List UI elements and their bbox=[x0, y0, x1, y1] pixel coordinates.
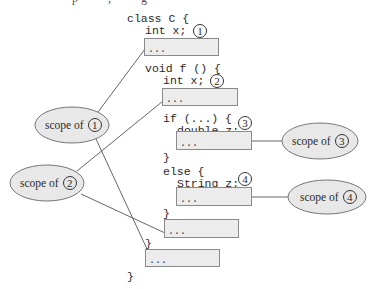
code-line-int-x-local: int x; bbox=[163, 75, 204, 87]
scope-label-text: scope of bbox=[300, 191, 339, 203]
marker-3: 3 bbox=[238, 116, 252, 130]
scope-label-3: scope of 3 bbox=[292, 134, 349, 148]
scope-marker-3: 3 bbox=[335, 134, 349, 148]
connector-scope1-box6 bbox=[96, 139, 147, 249]
connector-scope1-box1 bbox=[98, 49, 145, 112]
cropped-title-fragment: p , g bbox=[72, 0, 147, 6]
code-block-2: ... bbox=[162, 88, 238, 106]
scope-label-1: scope of 1 bbox=[45, 118, 102, 132]
marker-4: 4 bbox=[238, 172, 252, 186]
scope-marker-1: 1 bbox=[88, 118, 102, 132]
marker-1: 1 bbox=[193, 24, 207, 38]
scope-marker-4: 4 bbox=[343, 190, 357, 204]
code-block-1: ... bbox=[144, 38, 219, 56]
code-block-6: ... bbox=[145, 249, 220, 267]
code-block-3: ... bbox=[176, 131, 252, 150]
scope-label-text: scope of bbox=[20, 177, 59, 189]
connector-scope2-box5 bbox=[81, 194, 165, 233]
code-block-4: ... bbox=[176, 187, 252, 206]
scope-marker-2: 2 bbox=[63, 176, 77, 190]
scope-label-text: scope of bbox=[45, 119, 84, 131]
marker-2: 2 bbox=[210, 74, 224, 88]
code-line-int-x-field: int x; bbox=[145, 25, 186, 37]
code-line-if-close: } bbox=[163, 152, 170, 164]
scope-label-4: scope of 4 bbox=[300, 190, 357, 204]
scope-label-2: scope of 2 bbox=[20, 176, 77, 190]
scope-label-text: scope of bbox=[292, 135, 331, 147]
code-block-5: ... bbox=[164, 219, 239, 238]
code-line-class-close: } bbox=[127, 271, 134, 283]
